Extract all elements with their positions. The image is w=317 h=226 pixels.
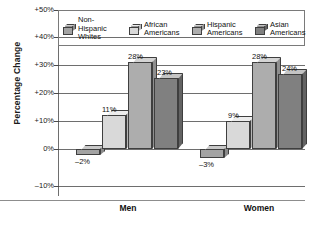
y-tick-40: +40%: [16, 33, 54, 41]
y-axis-tick-labels: +50% +40% +30% +20% +10% 0% –10%: [16, 0, 54, 226]
legend-cube-non-hispanic-whites-icon: [63, 24, 76, 35]
bottom-separator-rule: [0, 200, 305, 201]
bar-women-african-americans: [226, 121, 250, 149]
y-tick-50: +50%: [16, 6, 54, 14]
y-tick-10: +10%: [16, 117, 54, 125]
x-group-label-men: Men: [88, 203, 168, 213]
legend-label-african-americans: African Americans: [144, 21, 179, 38]
bar-women-asian-americans: [278, 74, 302, 149]
value-label-women-african: 9%: [228, 111, 239, 120]
legend-item-asian-americans: Asian Americans: [255, 14, 313, 44]
bar-men-asian-americans: [154, 78, 178, 149]
bar-chart: Percentage Change +50% +40% +30% +20% +1…: [0, 0, 317, 226]
value-label-men-asian: 23%: [157, 68, 172, 77]
bar-men-non-hispanic-whites: [76, 149, 100, 155]
bar-women-non-hispanic-whites: [200, 149, 224, 158]
legend-cube-asian-americans-icon: [255, 24, 268, 35]
value-label-men-hispanic: 28%: [128, 52, 143, 61]
legend-cube-hispanic-americans-icon: [192, 24, 205, 35]
value-label-women-white: –3%: [199, 160, 214, 169]
y-tick-m10: –10%: [16, 182, 54, 190]
legend-item-hispanic-americans: Hispanic Americans: [192, 14, 254, 44]
legend-label-hispanic-americans: Hispanic Americans: [207, 21, 242, 38]
legend-label-asian-americans: Asian Americans: [270, 21, 305, 38]
y-tick-30: +30%: [16, 61, 54, 69]
value-label-women-asian: 24%: [282, 64, 297, 73]
value-label-men-african: 11%: [102, 105, 116, 114]
legend-cube-african-americans-icon: [129, 24, 142, 35]
legend-label-non-hispanic-whites: Non- Hispanic Whites: [78, 16, 107, 42]
legend-item-non-hispanic-whites: Non- Hispanic Whites: [63, 14, 129, 44]
y-tick-0: 0%: [16, 145, 54, 153]
value-label-men-white: –2%: [75, 157, 90, 166]
bar-women-hispanic-americans: [252, 62, 276, 149]
gridline-m10: [58, 186, 305, 187]
y-tick-20: +20%: [16, 89, 54, 97]
bar-men-african-americans: [102, 115, 126, 149]
legend: Non- Hispanic Whites African Americans H…: [58, 10, 305, 46]
value-label-women-hispanic: 28%: [252, 52, 267, 61]
bar-men-hispanic-americans: [128, 62, 152, 149]
x-group-label-women: Women: [214, 203, 304, 213]
legend-item-african-americans: African Americans: [129, 14, 191, 44]
